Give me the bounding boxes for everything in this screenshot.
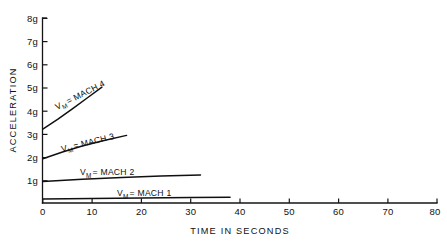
series-label-mach-1-sub: M xyxy=(123,193,129,200)
series-label-mach-1: VM= MACH 1 xyxy=(117,188,171,200)
series-label-mach-4: VM= MACH 4 xyxy=(53,78,107,113)
x-tick-label-60: 60 xyxy=(333,206,344,217)
x-tick-label-10: 10 xyxy=(87,206,98,217)
y-tick-label-2g: 2g xyxy=(27,152,38,163)
y-tick-label-5g: 5g xyxy=(27,82,38,93)
svg-text:VM= MACH 3: VM= MACH 3 xyxy=(60,131,116,155)
x-tick-label-0: 0 xyxy=(40,206,45,217)
x-axis-ticks xyxy=(43,199,437,204)
x-tick-label-80: 80 xyxy=(430,206,441,217)
y-axis-tick-labels: 1g 2g 3g 4g 5g 6g 7g 8g xyxy=(27,13,38,186)
series-label-mach-1-rest: = MACH 1 xyxy=(130,188,172,198)
svg-text:VM= MACH 4: VM= MACH 4 xyxy=(53,78,107,113)
svg-text:VM= MACH 1: VM= MACH 1 xyxy=(117,188,171,200)
x-axis-title: TIME IN SECONDS xyxy=(190,226,290,236)
x-tick-label-40: 40 xyxy=(235,206,246,217)
acceleration-vs-time-chart: 1g 2g 3g 4g 5g 6g 7g 8g 0 10 20 30 xyxy=(0,0,447,244)
y-tick-label-6g: 6g xyxy=(27,59,38,70)
series-label-mach-2-rest: = MACH 2 xyxy=(93,167,135,177)
series-label-mach-3-rest: = MACH 3 xyxy=(72,131,115,151)
y-axis-ticks xyxy=(43,18,48,180)
y-tick-label-7g: 7g xyxy=(27,36,38,47)
series-label-mach-3: VM= MACH 3 xyxy=(60,131,116,155)
chart-figure: 1g 2g 3g 4g 5g 6g 7g 8g 0 10 20 30 xyxy=(0,0,447,244)
y-axis-title: ACCELERATION xyxy=(8,67,18,152)
svg-text:VM= MACH 2: VM= MACH 2 xyxy=(80,167,134,179)
series-label-mach-4-rest: = MACH 4 xyxy=(65,78,107,106)
x-axis-tick-labels: 0 10 20 30 40 50 60 70 80 xyxy=(40,206,440,217)
y-tick-label-3g: 3g xyxy=(27,129,38,140)
x-tick-label-30: 30 xyxy=(185,206,196,217)
x-tick-label-50: 50 xyxy=(284,206,295,217)
y-tick-label-8g: 8g xyxy=(27,13,38,24)
x-tick-label-70: 70 xyxy=(382,206,393,217)
y-tick-label-4g: 4g xyxy=(27,106,38,117)
series-label-mach-2-sub: M xyxy=(86,172,92,179)
series-label-mach-2: VM= MACH 2 xyxy=(80,167,134,179)
x-tick-label-20: 20 xyxy=(136,206,147,217)
y-tick-label-1g: 1g xyxy=(27,175,38,186)
